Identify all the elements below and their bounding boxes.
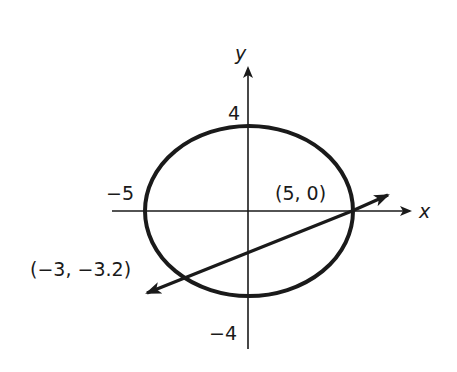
- secant-line: [352, 195, 388, 211]
- x-axis-label: x: [419, 202, 430, 221]
- tick-label-y-4: 4: [228, 104, 240, 123]
- tick-label-y-neg4: −4: [209, 324, 237, 343]
- tick-label-x-neg5: −5: [106, 184, 134, 203]
- point-label-neg3-neg3.2: (−3, −3.2): [30, 260, 131, 279]
- coordinate-diagram: y x 4 −5 −4 (5, 0) (−3, −3.2): [0, 0, 457, 372]
- point-label-5-0: (5, 0): [275, 184, 326, 203]
- secant-line-back: [147, 211, 352, 293]
- y-axis-label: y: [235, 44, 246, 63]
- graph-svg: [0, 0, 457, 372]
